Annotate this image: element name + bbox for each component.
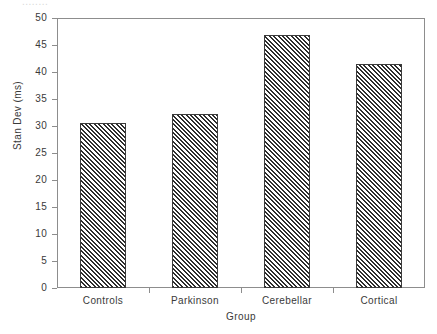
- y-tick-label: 5: [41, 254, 47, 267]
- y-tick-mark: [52, 18, 57, 19]
- y-tick-label: 20: [35, 173, 47, 186]
- y-tick-label: 10: [35, 227, 47, 240]
- y-tick-mark: [52, 261, 57, 262]
- x-tick-mark: [149, 288, 150, 293]
- y-tick-mark: [52, 45, 57, 46]
- y-tick-mark: [52, 234, 57, 235]
- y-tick-mark: [52, 288, 57, 289]
- y-tick-label: 25: [35, 146, 47, 159]
- y-tick: 30: [0, 126, 56, 127]
- y-tick-label: 0: [41, 281, 47, 294]
- bar: [264, 35, 310, 288]
- y-tick: 0: [0, 288, 56, 289]
- x-tick-mark: [241, 288, 242, 293]
- y-tick: 15: [0, 207, 56, 208]
- x-tick-label: Cerebellar: [241, 295, 333, 306]
- y-tick-label: 50: [35, 11, 47, 24]
- y-tick-label: 40: [35, 65, 47, 78]
- y-tick-label: 45: [35, 38, 47, 51]
- y-tick: 50: [0, 18, 56, 19]
- y-tick-mark: [52, 180, 57, 181]
- x-tick-label: Controls: [57, 295, 149, 306]
- y-tick-mark: [52, 72, 57, 73]
- y-tick-mark: [52, 99, 57, 100]
- y-axis-title: Stan Dev (ms): [12, 70, 23, 162]
- bar-chart-figure: ........ Stan Dev (ms) 05101520253035404…: [0, 0, 437, 334]
- y-tick-label: 35: [35, 92, 47, 105]
- y-tick: 25: [0, 153, 56, 154]
- y-tick: 35: [0, 99, 56, 100]
- y-tick: 10: [0, 234, 56, 235]
- y-tick-label: 15: [35, 200, 47, 213]
- y-tick: 5: [0, 261, 56, 262]
- bar: [80, 123, 126, 288]
- bar: [172, 114, 218, 288]
- x-axis-title: Group: [57, 311, 425, 322]
- y-tick-mark: [52, 207, 57, 208]
- x-tick-label: Cortical: [333, 295, 425, 306]
- x-tick-mark: [333, 288, 334, 293]
- y-tick: 45: [0, 45, 56, 46]
- y-tick-mark: [52, 126, 57, 127]
- bar: [356, 64, 402, 288]
- clipped-header-text: ........: [22, 0, 182, 7]
- y-tick: 40: [0, 72, 56, 73]
- y-tick: 20: [0, 180, 56, 181]
- y-tick-label: 30: [35, 119, 47, 132]
- x-tick-label: Parkinson: [149, 295, 241, 306]
- y-tick-mark: [52, 153, 57, 154]
